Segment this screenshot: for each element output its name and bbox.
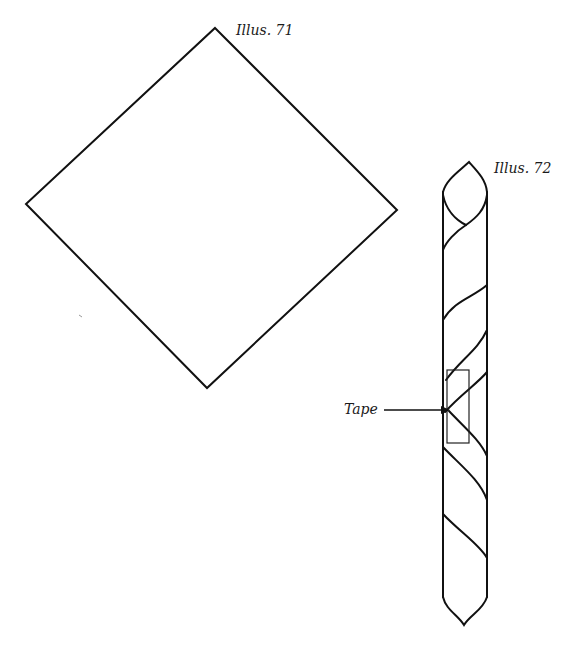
tape-label: Tape bbox=[344, 401, 378, 417]
spiral-band bbox=[449, 411, 487, 456]
square-paper-diamond bbox=[26, 28, 397, 388]
rolled-tube bbox=[443, 162, 487, 625]
spiral-band bbox=[443, 447, 487, 500]
spiral-band bbox=[443, 514, 487, 558]
tube-top-tip bbox=[443, 162, 487, 192]
spiral-band bbox=[446, 330, 487, 380]
tape-callout-arrow bbox=[384, 406, 450, 414]
tube-opening-curve bbox=[443, 195, 487, 225]
spiral-band bbox=[445, 372, 487, 412]
spiral-band bbox=[443, 285, 487, 320]
illustration-canvas bbox=[0, 0, 580, 652]
stray-mark bbox=[79, 315, 82, 317]
spiral-band bbox=[443, 225, 466, 250]
illus-72-label: Illus. 72 bbox=[494, 160, 551, 176]
tube-bottom-tip bbox=[443, 597, 487, 625]
illus-71-label: Illus. 71 bbox=[236, 22, 293, 38]
